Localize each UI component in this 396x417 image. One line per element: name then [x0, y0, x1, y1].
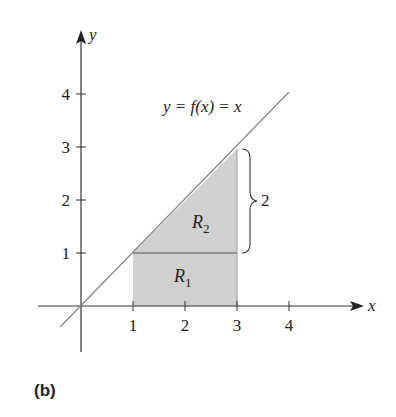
x-tick-label: 3: [233, 316, 242, 335]
y-tick-label: 2: [62, 191, 71, 210]
area-diagram: 1 2 3 4 1 2 3 4 x y y = f(x) = x R2 R1 2…: [0, 0, 396, 417]
x-tick-label: 2: [181, 316, 190, 335]
brace: [242, 149, 257, 253]
y-axis-label: y: [87, 25, 97, 44]
y-tick-label: 4: [62, 85, 71, 104]
x-axis-label: x: [367, 296, 376, 315]
function-label: y = f(x) = x: [161, 97, 242, 116]
x-tick-label: 1: [129, 316, 138, 335]
y-tick-label: 1: [62, 244, 71, 263]
brace-label: 2: [261, 191, 270, 210]
region-r2: [133, 149, 237, 253]
y-tick-label: 3: [62, 138, 71, 157]
x-tick-label: 4: [285, 316, 294, 335]
figure-caption: (b): [34, 381, 56, 400]
